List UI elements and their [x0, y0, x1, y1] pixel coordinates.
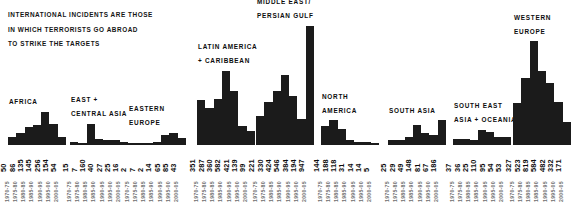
bar-column[interactable]: [503, 26, 511, 144]
bar-column[interactable]: [103, 26, 111, 144]
bar-column[interactable]: [470, 26, 478, 144]
bar-column[interactable]: [205, 26, 213, 144]
bar[interactable]: [273, 91, 281, 144]
bar-column[interactable]: [49, 26, 57, 144]
bar[interactable]: [256, 116, 264, 144]
bar[interactable]: [41, 112, 49, 144]
bar[interactable]: [521, 78, 529, 143]
bar-column[interactable]: [494, 26, 502, 144]
bar[interactable]: [214, 99, 222, 144]
bar[interactable]: [281, 75, 289, 143]
bar-column[interactable]: [153, 26, 161, 144]
year-label: 2000-05: [366, 181, 372, 202]
bar-column[interactable]: [33, 26, 41, 144]
bar-column[interactable]: [222, 26, 230, 144]
bar-column[interactable]: [461, 26, 469, 144]
bar-column[interactable]: [321, 26, 329, 144]
bar-column[interactable]: [388, 26, 396, 144]
bar[interactable]: [563, 122, 571, 143]
bar-column[interactable]: [453, 26, 461, 144]
bar-column[interactable]: [486, 26, 494, 144]
bar-group: [256, 26, 314, 144]
bar-column[interactable]: [95, 26, 103, 144]
bar-column[interactable]: [413, 26, 421, 144]
bar-column[interactable]: [421, 26, 429, 144]
bar[interactable]: [329, 120, 337, 143]
region-panel: LATIN AMERICA+ CARIBBEAN3512873605824211…: [197, 0, 255, 208]
bar-column[interactable]: [111, 26, 119, 144]
bar-column[interactable]: [264, 26, 272, 144]
bar-column[interactable]: [70, 26, 78, 144]
bar-column[interactable]: [197, 26, 205, 144]
bar[interactable]: [205, 108, 213, 144]
bar-column[interactable]: [214, 26, 222, 144]
bar-column[interactable]: [354, 26, 362, 144]
bar-column[interactable]: [128, 26, 136, 144]
bar-column[interactable]: [563, 26, 571, 144]
bar-column[interactable]: [396, 26, 404, 144]
bar-column[interactable]: [16, 26, 24, 144]
bar-column[interactable]: [289, 26, 297, 144]
bar-group: [513, 26, 571, 144]
bar[interactable]: [289, 96, 297, 144]
bar-column[interactable]: [256, 26, 264, 144]
bar-column[interactable]: [546, 26, 554, 144]
bar-column[interactable]: [521, 26, 529, 144]
bar-column[interactable]: [145, 26, 153, 144]
bar-column[interactable]: [41, 26, 49, 144]
bar-column[interactable]: [238, 26, 246, 144]
bar[interactable]: [546, 83, 554, 143]
bar-column[interactable]: [306, 26, 314, 144]
bar[interactable]: [297, 119, 305, 143]
bar-column[interactable]: [25, 26, 33, 144]
bar[interactable]: [513, 103, 521, 144]
bar-column[interactable]: [513, 26, 521, 144]
bar[interactable]: [238, 126, 246, 143]
bar[interactable]: [413, 125, 421, 143]
value-label-group: 2529491488167186: [388, 142, 446, 172]
bar-column[interactable]: [362, 26, 370, 144]
bar-column[interactable]: [346, 26, 354, 144]
bar[interactable]: [530, 41, 538, 143]
bar[interactable]: [438, 120, 446, 143]
bar-column[interactable]: [554, 26, 562, 144]
bar-column[interactable]: [478, 26, 486, 144]
bar-column[interactable]: [281, 26, 289, 144]
bar-column[interactable]: [429, 26, 437, 144]
bar-column[interactable]: [8, 26, 16, 144]
bar[interactable]: [538, 71, 546, 144]
bar-column[interactable]: [405, 26, 413, 144]
bar-column[interactable]: [297, 26, 305, 144]
bar-column[interactable]: [169, 26, 177, 144]
bar[interactable]: [49, 124, 57, 143]
value-label-group: 508613514525615454: [8, 142, 66, 172]
bar-column[interactable]: [230, 26, 238, 144]
bar-column[interactable]: [438, 26, 446, 144]
bar[interactable]: [554, 102, 562, 143]
bar[interactable]: [197, 100, 205, 144]
bar-column[interactable]: [120, 26, 128, 144]
bar[interactable]: [25, 127, 33, 144]
bar-column[interactable]: [161, 26, 169, 144]
bar-column[interactable]: [530, 26, 538, 144]
bar-column[interactable]: [178, 26, 186, 144]
bar-column[interactable]: [247, 26, 255, 144]
bar[interactable]: [222, 71, 230, 144]
bar[interactable]: [321, 126, 329, 144]
bar-column[interactable]: [78, 26, 86, 144]
bar[interactable]: [306, 26, 314, 144]
bar[interactable]: [230, 91, 238, 143]
bar-column[interactable]: [87, 26, 95, 144]
bar-column[interactable]: [58, 26, 66, 144]
bar-column[interactable]: [538, 26, 546, 144]
year-label: 1975-80: [457, 181, 463, 202]
year-label: 1995-00: [293, 181, 299, 202]
bar-column[interactable]: [338, 26, 346, 144]
bar-column[interactable]: [136, 26, 144, 144]
bar[interactable]: [87, 124, 95, 144]
bar-column[interactable]: [371, 26, 379, 144]
bar[interactable]: [33, 125, 41, 143]
bar[interactable]: [264, 102, 272, 143]
bar-column[interactable]: [273, 26, 281, 144]
bar-column[interactable]: [329, 26, 337, 144]
